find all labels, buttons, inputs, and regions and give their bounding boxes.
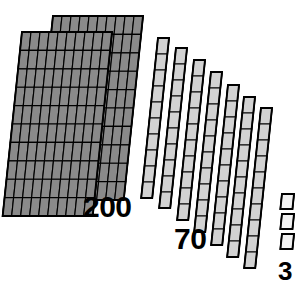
blocks-root (3, 16, 294, 268)
ones-unit-2 (280, 214, 294, 229)
hundreds-flat-2 (3, 32, 112, 216)
blocks-canvas (0, 0, 304, 288)
ones-unit-3 (280, 234, 294, 249)
base-ten-blocks-diagram: 200 70 3 (0, 0, 304, 288)
ones-unit-1 (280, 194, 294, 209)
hundreds-value-label: 200 (83, 192, 132, 222)
tens-value-label: 70 (174, 224, 206, 254)
ones-value-label: 3 (278, 258, 292, 284)
